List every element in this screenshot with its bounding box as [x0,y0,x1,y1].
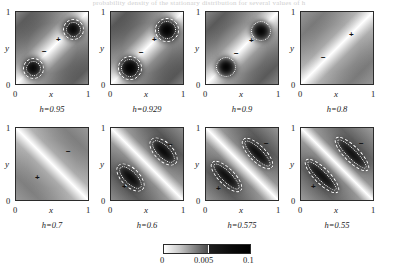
marker-minus: − [264,140,269,148]
x-tick-left: 0 [13,90,17,99]
density-field: + − [301,12,373,84]
x-axis-label: x [144,90,148,99]
panel-caption: h=0.7 [15,221,89,230]
y-tick-bottom: 0 [6,197,10,206]
marker-minus: − [359,140,364,148]
y-tick-top: 1 [6,8,10,17]
x-axis-label: x [49,206,53,215]
marker-plus: + [35,174,40,182]
colorbar-low-segment [164,245,208,253]
x-axis-label: x [239,206,243,215]
marker-minus: − [321,54,326,62]
x-tick-right: 1 [86,90,90,99]
panel-h-0-929: + − 1 0 y 0 1 x h=0.929 [110,11,184,85]
density-field: + − [206,12,278,84]
marker-plus: + [311,183,316,191]
x-tick-right: 1 [371,206,375,215]
y-axis-label: y [195,44,199,53]
marker-plus: + [349,31,354,39]
x-tick-right: 1 [371,90,375,99]
y-axis-label: y [100,44,104,53]
clipped-header-text: probability density of the stationary di… [0,0,398,7]
panel-h-0-55: + − 1 0 y 0 1 x h=0.55 [300,127,374,201]
y-axis-label: y [5,160,9,169]
y-axis-label: y [100,160,104,169]
panel-frame: + − [205,127,279,201]
panel-h-0-575: + − 1 0 y 0 1 x h=0.575 [205,127,279,201]
panel-caption: h=0.929 [110,105,184,114]
y-axis-label: y [195,160,199,169]
x-tick-right: 1 [181,90,185,99]
marker-minus: − [66,148,71,156]
marker-plus: + [216,185,221,193]
panel-h-0-95: + − 1 0 y 0 1 x h=0.95 [15,11,89,85]
x-axis-label: x [334,90,338,99]
y-tick-bottom: 0 [101,81,105,90]
x-axis-label: x [144,206,148,215]
panel-caption: h=0.55 [300,221,374,230]
x-tick-right: 1 [86,206,90,215]
panel-h-0-6: + − 1 0 y 0 1 x h=0.6 [110,127,184,201]
density-field: + − [16,12,88,84]
marker-minus: − [139,49,144,57]
y-tick-top: 1 [6,124,10,133]
marker-minus: − [234,50,239,58]
panel-caption: h=0.6 [110,221,184,230]
y-tick-top: 1 [291,8,295,17]
y-tick-top: 1 [196,124,200,133]
panel-caption: h=0.9 [205,105,279,114]
panel-h-0-9: + − 1 0 y 0 1 x h=0.9 [205,11,279,85]
density-field: + − [111,12,183,84]
figure-panel-grid: probability density of the stationary di… [0,0,398,276]
colorbar-tick-0-005: 0.005 [194,256,213,265]
corner-falloff [15,127,89,201]
panel-frame: + − [15,127,89,201]
x-axis-label: x [334,206,338,215]
marker-plus: + [249,37,254,45]
y-tick-bottom: 0 [6,81,10,90]
density-field: + − [206,128,278,200]
y-axis-label: y [290,160,294,169]
y-tick-top: 1 [291,124,295,133]
corner-falloff [300,11,374,85]
y-tick-top: 1 [196,8,200,17]
y-tick-bottom: 0 [291,81,295,90]
x-tick-right: 1 [181,206,185,215]
density-field: + − [301,128,373,200]
panel-frame: + − [110,11,184,85]
y-tick-bottom: 0 [101,197,105,206]
x-tick-left: 0 [108,90,112,99]
x-tick-left: 0 [13,206,17,215]
x-axis-label: x [49,90,53,99]
y-tick-top: 1 [101,8,105,17]
colorbar-group: 0 0.005 0.1 [163,244,251,254]
x-tick-left: 0 [203,206,207,215]
marker-plus: + [152,36,157,44]
panel-caption: h=0.8 [300,105,374,114]
density-field: + − [16,128,88,200]
y-axis-label: y [5,44,9,53]
colorbar [163,244,251,254]
panel-h-0-8: + − 1 0 y 0 1 x h=0.8 [300,11,374,85]
x-tick-left: 0 [298,206,302,215]
panel-h-0-7: + − 1 0 y 0 1 x h=0.7 [15,127,89,201]
panel-frame: + − [300,127,374,201]
y-axis-label: y [290,44,294,53]
colorbar-tick-0: 0 [160,256,164,265]
panel-frame: + − [300,11,374,85]
marker-minus: − [168,141,173,149]
colorbar-break-tick [208,245,209,253]
y-tick-bottom: 0 [196,197,200,206]
x-tick-left: 0 [298,90,302,99]
y-tick-top: 1 [101,124,105,133]
x-tick-left: 0 [203,90,207,99]
y-tick-bottom: 0 [196,81,200,90]
x-axis-label: x [239,90,243,99]
marker-minus: − [42,48,47,56]
y-tick-bottom: 0 [291,197,295,206]
marker-plus: + [122,183,127,191]
panel-caption: h=0.95 [15,105,89,114]
panel-frame: + − [205,11,279,85]
panel-caption: h=0.575 [205,221,279,230]
x-tick-left: 0 [108,206,112,215]
